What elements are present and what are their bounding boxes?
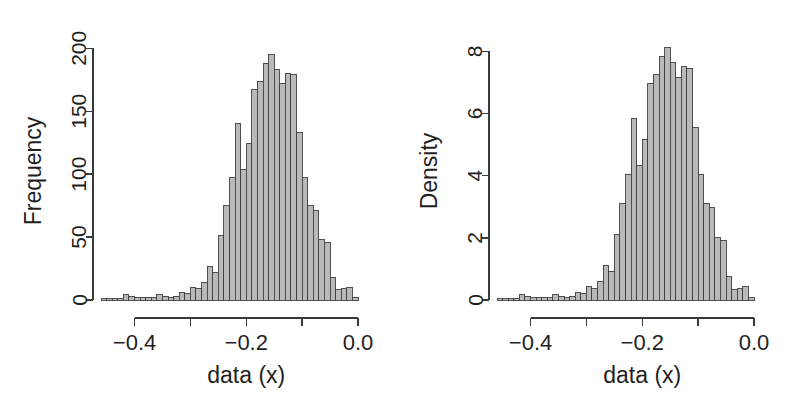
histogram-bar: [687, 68, 693, 300]
histogram-bar: [598, 282, 604, 300]
histogram-bar: [659, 57, 665, 300]
histogram-bar: [642, 139, 648, 300]
histogram-bar: [157, 295, 163, 300]
histogram-bar: [743, 287, 749, 300]
histogram-bar: [681, 67, 687, 300]
histogram-bar: [196, 289, 202, 300]
x-tick-label: −0.2: [225, 330, 268, 355]
y-tick-label: 8: [464, 45, 487, 57]
histogram-bar: [313, 211, 319, 300]
x-tick-label: −0.2: [621, 330, 664, 355]
histogram-bar: [151, 297, 157, 300]
histogram-bar: [319, 240, 325, 300]
histogram-bar: [609, 271, 615, 300]
histogram-bar: [230, 178, 236, 300]
histogram-bar: [748, 298, 754, 300]
histogram-bar: [603, 265, 609, 300]
y-tick-label: 150: [68, 94, 91, 129]
histogram-bar: [497, 299, 503, 300]
histogram-bar: [140, 297, 146, 300]
histogram-bar: [101, 299, 107, 300]
bars-group: [497, 48, 754, 300]
histogram-bar: [648, 84, 654, 300]
y-tick-label: 0: [464, 294, 487, 306]
y-tick-label: 0: [68, 294, 91, 306]
histogram-bar: [726, 277, 732, 300]
y-tick-label: 4: [464, 170, 487, 182]
histogram-bar: [285, 73, 291, 300]
histogram-bar: [123, 295, 129, 300]
histogram-bar: [330, 277, 336, 300]
histogram-bar: [213, 272, 219, 300]
histogram-bar: [693, 128, 699, 300]
histogram-bar: [558, 296, 564, 300]
histogram-bar: [352, 297, 358, 300]
histogram-bar: [112, 299, 118, 300]
y-tick-label: 50: [68, 225, 91, 248]
histogram-bar: [732, 290, 738, 300]
y-axis-title: Density: [416, 132, 442, 209]
histogram-bar: [280, 84, 286, 300]
y-tick-label: 6: [464, 108, 487, 120]
histogram-bar: [168, 297, 174, 300]
y-axis-title: Frequency: [20, 116, 46, 225]
histogram-bar: [146, 297, 152, 300]
histogram-bar: [246, 144, 252, 300]
histogram-bar: [291, 75, 297, 300]
histogram-bar: [670, 63, 676, 300]
histogram-bar: [737, 289, 743, 301]
histogram-bar: [709, 208, 715, 300]
x-tick-label: −0.4: [509, 330, 552, 355]
histogram-bar: [185, 294, 191, 300]
histogram-bar: [274, 70, 280, 300]
histogram-bar: [653, 75, 659, 300]
histogram-bar: [614, 234, 620, 300]
histogram-bar: [107, 299, 113, 300]
histogram-bar: [347, 287, 353, 300]
histogram-bar: [704, 203, 710, 300]
histogram-bar: [218, 236, 224, 300]
histogram-bar: [257, 81, 263, 300]
histogram-bar: [715, 238, 721, 300]
histogram-bar: [631, 119, 637, 300]
histogram-bar: [698, 174, 704, 300]
histogram-bar: [129, 296, 135, 300]
histogram-bar: [263, 63, 269, 300]
histogram-bar: [547, 298, 553, 300]
histogram-bar: [324, 242, 330, 300]
histogram-bar: [586, 287, 592, 300]
histogram-bar: [202, 282, 208, 300]
x-tick-label: 0.0: [343, 330, 374, 355]
histogram-bar: [665, 48, 671, 300]
histogram-bar: [592, 289, 598, 301]
histogram-bar: [118, 299, 124, 300]
histogram-bar: [162, 296, 168, 300]
density-histogram-svg: 02468−0.4−0.20.0data (x)Density: [396, 0, 791, 411]
histogram-bar: [252, 90, 258, 300]
histogram-bar: [269, 55, 275, 300]
panel-frequency-histogram: 050100150200−0.4−0.20.0data (x)Frequency: [0, 0, 395, 411]
histogram-bar: [135, 297, 141, 300]
histogram-bar: [570, 296, 576, 300]
frequency-histogram-svg: 050100150200−0.4−0.20.0data (x)Frequency: [0, 0, 395, 411]
histogram-bar: [575, 292, 581, 300]
histogram-bar: [341, 289, 347, 300]
histogram-bar: [525, 296, 531, 300]
x-axis-title: data (x): [207, 362, 285, 388]
histogram-bar: [519, 295, 525, 300]
histogram-bar: [297, 133, 303, 300]
histogram-bar: [241, 169, 247, 300]
panel-density-histogram: 02468−0.4−0.20.0data (x)Density: [396, 0, 791, 411]
histogram-bar: [224, 206, 230, 300]
histogram-bar: [308, 206, 314, 300]
histogram-bar: [581, 293, 587, 300]
x-tick-label: 0.0: [739, 330, 770, 355]
x-axis-title: data (x): [603, 362, 681, 388]
histogram-bar: [174, 296, 180, 300]
bars-group: [101, 55, 358, 300]
y-tick-label: 2: [464, 232, 487, 244]
histogram-bar: [720, 240, 726, 300]
histogram-figure: 050100150200−0.4−0.20.0data (x)Frequency…: [0, 0, 791, 411]
histogram-bar: [207, 266, 213, 300]
histogram-bar: [637, 165, 643, 300]
